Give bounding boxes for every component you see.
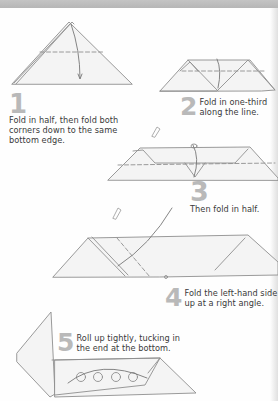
step-3: 3 Then fold in half.: [190, 180, 278, 214]
diagram-step3-shape: [108, 144, 278, 180]
step-text-line: Roll up tightly, tucking in: [76, 333, 180, 343]
instruction-page: 1 Fold in half, then fold both corners d…: [0, 0, 278, 401]
diagram-step2-shape: [160, 59, 275, 91]
step-text-line: Then fold in half.: [190, 204, 259, 214]
step-text-line: along the line.: [199, 107, 258, 117]
step-text-line: bottom edge.: [9, 135, 65, 145]
step-2: 2 Fold in one-third along the line.: [180, 97, 275, 117]
step-5: 5 Roll up tightly, tucking in the end at…: [57, 333, 182, 353]
step-text-line: Fold in half, then fold both: [9, 115, 118, 125]
step-number: 1: [9, 93, 27, 115]
diagram-step5-shape: [17, 312, 196, 397]
pencil-doodle-icon: [113, 208, 121, 219]
step-text-line: Fold the left-hand side: [184, 288, 277, 298]
step-text-line: the end at the bottom.: [76, 343, 170, 353]
step-number: 5: [57, 333, 74, 353]
step-number: 4: [165, 288, 182, 308]
step-1: 1 Fold in half, then fold both corners d…: [9, 93, 129, 145]
pencil-doodle-icon: [152, 127, 160, 137]
diagram-step1-triangle: [12, 22, 132, 84]
step-text-line: corners down to the same: [9, 125, 117, 135]
step-text-line: Fold in one-third: [199, 97, 267, 107]
step-text-line: up at a right angle.: [184, 298, 264, 308]
step-4: 4 Fold the left-hand side up at a right …: [165, 288, 278, 308]
diagram-step4-shape: [53, 208, 278, 279]
step-number: 3: [190, 180, 209, 204]
step-number: 2: [180, 97, 197, 117]
